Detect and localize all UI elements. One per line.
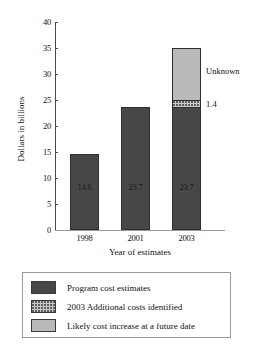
- bar-1998-program: [70, 154, 99, 230]
- x-axis-title: Year of estimates: [55, 247, 225, 257]
- y-tick-mark-5: [55, 204, 58, 205]
- y-tick-mark-35: [55, 48, 58, 49]
- y-tick-mark-15: [55, 152, 58, 153]
- y-tick-mark-10: [55, 178, 58, 179]
- bar-2001-program: [121, 107, 150, 230]
- y-tick-35: 35: [31, 44, 51, 53]
- legend-item-future: Likely cost increase at a future date: [31, 318, 195, 333]
- y-tick-10: 10: [31, 174, 51, 183]
- y-tick-mark-30: [55, 74, 58, 75]
- x-tick-2001: 2001: [121, 233, 150, 243]
- legend-label-additional: 2003 Additional costs identified: [67, 302, 182, 312]
- chart-legend: Program cost estimates 2003 Additional c…: [22, 272, 231, 338]
- y-tick-20: 20: [31, 122, 51, 131]
- y-tick-30: 30: [31, 70, 51, 79]
- legend-item-additional: 2003 Additional costs identified: [31, 299, 182, 314]
- y-tick-mark-40: [55, 22, 58, 23]
- y-tick-5: 5: [31, 200, 51, 209]
- y-tick-0: 0: [31, 226, 51, 235]
- x-tick-2003: 2003: [172, 233, 201, 243]
- legend-swatch-future-icon: [31, 319, 56, 332]
- legend-label-future: Likely cost increase at a future date: [67, 321, 195, 331]
- legend-item-program: Program cost estimates: [31, 280, 150, 295]
- y-axis-ticks: 40 35 30 25 20 15 10 5 0: [29, 22, 51, 230]
- y-tick-40: 40: [31, 18, 51, 27]
- bar-2003-additional: [172, 100, 201, 108]
- bar-2003-program: [172, 107, 201, 230]
- annotation-unknown: Unknown: [206, 66, 240, 76]
- bar-value-2003: 23.7: [172, 182, 201, 192]
- bar-value-2001: 23.7: [121, 182, 150, 192]
- bar-chart: Dollars in billions 40 35 30 25 20 15 10…: [0, 0, 260, 360]
- legend-label-program: Program cost estimates: [67, 283, 150, 293]
- y-tick-25: 25: [31, 96, 51, 105]
- legend-swatch-additional-icon: [31, 300, 56, 313]
- x-axis-line: [55, 230, 225, 231]
- annotation-additional: 1.4: [206, 99, 217, 109]
- y-tick-15: 15: [31, 148, 51, 157]
- y-tick-mark-25: [55, 100, 58, 101]
- bar-2003-future: [172, 48, 201, 101]
- bar-value-1998: 14.6: [70, 182, 99, 192]
- y-axis-title: Dollars in billions: [16, 64, 26, 194]
- y-tick-mark-20: [55, 126, 58, 127]
- x-tick-1998: 1998: [70, 233, 99, 243]
- y-axis-title-container: Dollars in billions: [8, 20, 28, 230]
- legend-swatch-program-icon: [31, 281, 56, 294]
